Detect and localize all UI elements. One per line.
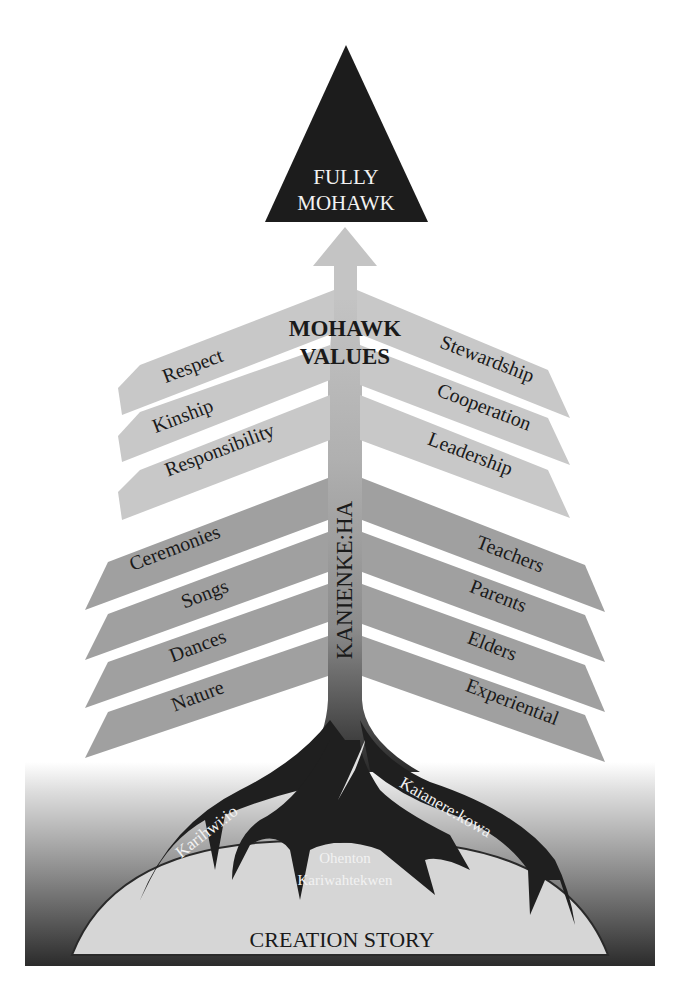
apex-label-line2: MOHAWK xyxy=(297,191,394,215)
practices-branches-right xyxy=(362,478,605,762)
upward-arrow xyxy=(313,227,377,300)
apex-label-line1: FULLY xyxy=(313,165,379,189)
apex-triangle: FULLY MOHAWK xyxy=(265,45,428,222)
foundation-label: CREATION STORY xyxy=(250,927,435,952)
practices-branches-left xyxy=(85,478,328,758)
trunk-label: KANIENKE:HA xyxy=(332,500,357,659)
values-heading-line1: MOHAWK xyxy=(289,316,402,341)
values-heading-line2: VALUES xyxy=(300,344,390,369)
root-label-center-line1: Ohenton xyxy=(319,850,371,866)
mohawk-tree-diagram: FULLY MOHAWK KANIENKE:HA MOHAWK VA xyxy=(0,0,694,993)
root-label-center-line2: Kariwahtekwen xyxy=(298,872,393,888)
